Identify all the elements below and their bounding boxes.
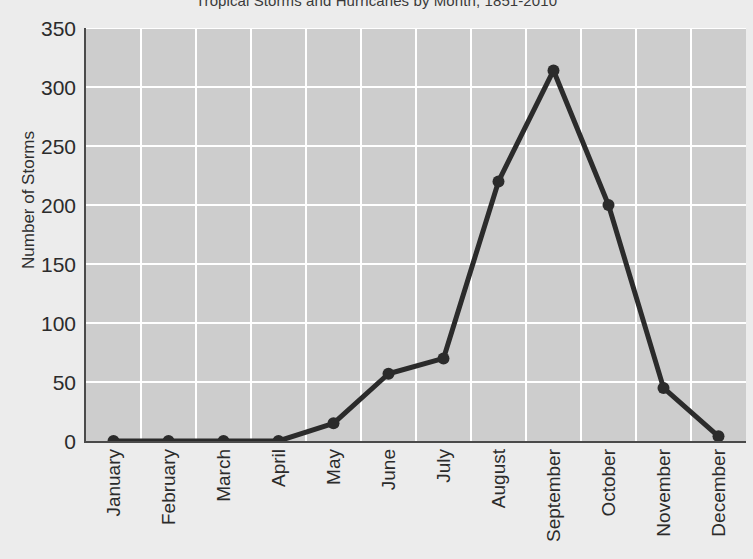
data-point-november <box>658 382 670 394</box>
line-chart-plot <box>86 28 746 441</box>
y-tick-label: 350 <box>18 18 76 39</box>
data-point-june <box>383 368 395 380</box>
x-tick-label-july: July <box>433 449 455 483</box>
chart-container: Tropical Storms and Hurricanes by Month,… <box>0 0 753 559</box>
x-tick-label-october: October <box>598 449 620 517</box>
data-point-august <box>493 175 505 187</box>
data-point-may <box>328 417 340 429</box>
data-point-september <box>548 64 560 76</box>
x-tick-label-february: February <box>158 449 180 525</box>
y-axis-tick-labels: 050100150200250300350 <box>18 0 76 559</box>
y-tick-label: 50 <box>18 372 76 393</box>
plot-area <box>84 28 746 443</box>
x-tick-label-september: September <box>543 449 565 542</box>
y-tick-label: 100 <box>18 313 76 334</box>
y-tick-label: 300 <box>18 77 76 98</box>
x-tick-label-june: June <box>378 449 400 490</box>
x-tick-label-april: April <box>268 449 290 487</box>
x-tick-label-may: May <box>323 449 345 485</box>
x-tick-label-march: March <box>213 449 235 502</box>
vertical-gridlines <box>141 28 691 441</box>
y-tick-label: 0 <box>18 431 76 452</box>
x-axis-tick-labels: JanuaryFebruaryMarchAprilMayJuneJulyAugu… <box>84 441 744 559</box>
y-tick-label: 150 <box>18 254 76 275</box>
x-tick-label-august: August <box>488 449 510 508</box>
data-point-july <box>438 352 450 364</box>
x-tick-label-january: January <box>103 449 125 517</box>
x-tick-label-november: November <box>653 449 675 537</box>
chart-title: Tropical Storms and Hurricanes by Month,… <box>0 0 753 10</box>
x-tick-label-december: December <box>708 449 730 537</box>
y-tick-label: 250 <box>18 136 76 157</box>
y-tick-label: 200 <box>18 195 76 216</box>
data-point-october <box>603 199 615 211</box>
